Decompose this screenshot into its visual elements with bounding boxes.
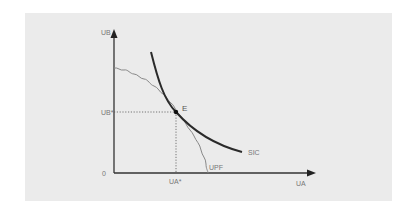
sic-label: SIC	[248, 149, 260, 156]
y-axis-arrow-icon	[111, 29, 118, 38]
y-axis-label: UB	[101, 29, 111, 36]
point-e-label: E	[182, 104, 187, 113]
ub-star-label: UB*	[101, 109, 114, 116]
equilibrium-point-e	[174, 110, 178, 114]
welfare-diagram: UB UA 0 UB* UA* E SIC UPF	[0, 0, 412, 212]
upf-label: UPF	[209, 164, 223, 171]
sic-curve	[151, 52, 242, 152]
x-axis-arrow-icon	[307, 170, 316, 177]
x-axis-label: UA	[296, 180, 306, 187]
origin-label: 0	[102, 170, 106, 177]
ua-star-label: UA*	[169, 178, 182, 185]
